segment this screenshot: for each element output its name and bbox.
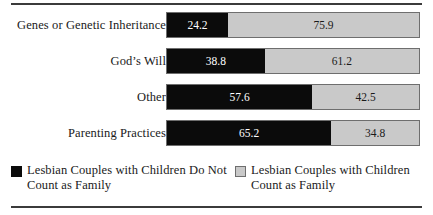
top-divider-rule	[11, 3, 422, 5]
legend-label-line1: Lesbian Couples with Children	[251, 163, 410, 177]
legend-label-line2: Count as Family	[27, 178, 111, 192]
bar-segment-do-not-count: 24.2	[167, 13, 228, 37]
plot-area: Genes or Genetic Inheritance 24.2 75.9 G…	[0, 12, 433, 156]
stacked-bar-chart-figure: Genes or Genetic Inheritance 24.2 75.9 G…	[0, 0, 433, 215]
category-label: Genes or Genetic Inheritance	[17, 12, 166, 38]
bar-row: Other 57.6 42.5	[0, 84, 433, 110]
bottom-divider-rule	[11, 206, 422, 208]
bar-row: Genes or Genetic Inheritance 24.2 75.9	[0, 12, 433, 38]
bar-track: 57.6 42.5	[166, 84, 420, 110]
black-square-icon	[11, 166, 22, 177]
legend-label-line2: Count as Family	[251, 178, 335, 192]
bar-value-label: 34.8	[365, 128, 385, 140]
bar-value-label: 42.5	[356, 92, 376, 104]
legend-entry-do-not-count: Lesbian Couples with Children Do NotCoun…	[11, 163, 235, 193]
bar-track: 38.8 61.2	[166, 48, 420, 74]
bar-segment-count: 42.5	[312, 85, 419, 109]
bar-value-label: 38.8	[206, 56, 226, 68]
bar-row: God’s Will 38.8 61.2	[0, 48, 433, 74]
bar-track: 65.2 34.8	[166, 120, 420, 146]
bar-value-label: 61.2	[332, 56, 352, 68]
bar-segment-do-not-count: 57.6	[167, 85, 312, 109]
bar-value-label: 57.6	[230, 92, 250, 104]
bar-segment-count: 34.8	[331, 121, 419, 145]
bar-track: 24.2 75.9	[166, 12, 420, 38]
legend-label-line1: Lesbian Couples with Children Do Not	[27, 163, 227, 177]
bar-segment-do-not-count: 38.8	[167, 49, 265, 73]
bar-value-label: 65.2	[239, 128, 259, 140]
bar-segment-count: 75.9	[228, 13, 419, 37]
legend-label: Lesbian Couples with Children Do NotCoun…	[27, 163, 227, 193]
bar-segment-do-not-count: 65.2	[167, 121, 331, 145]
bar-value-label: 24.2	[187, 20, 207, 32]
bar-row: Parenting Practices 65.2 34.8	[0, 120, 433, 146]
bar-value-label: 75.9	[313, 20, 333, 32]
gray-square-icon	[235, 166, 246, 177]
bar-segment-count: 61.2	[265, 49, 419, 73]
category-label: Parenting Practices	[68, 120, 166, 146]
legend-entry-count: Lesbian Couples with ChildrenCount as Fa…	[235, 163, 422, 193]
category-label: God’s Will	[111, 48, 166, 74]
category-label: Other	[137, 84, 166, 110]
chart-legend: Lesbian Couples with Children Do NotCoun…	[11, 163, 422, 193]
legend-label: Lesbian Couples with ChildrenCount as Fa…	[251, 163, 410, 193]
